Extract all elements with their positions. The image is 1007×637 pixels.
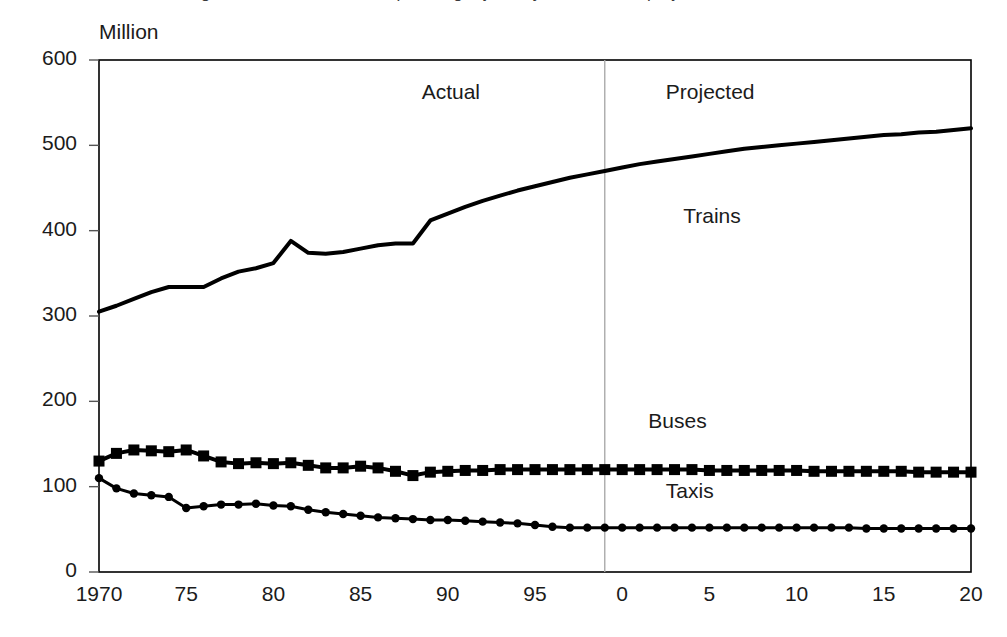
x-tick-label: 90	[403, 582, 493, 606]
annotation-actual: Actual	[422, 80, 480, 104]
y-tick-label: 500	[15, 131, 77, 155]
x-tick-label: 0	[577, 582, 667, 606]
x-tick-label: 95	[490, 582, 580, 606]
y-tick-label: 200	[15, 387, 77, 411]
x-tick-label: 5	[664, 582, 754, 606]
annotation-projected: Projected	[666, 80, 755, 104]
y-tick-label: 0	[15, 558, 77, 582]
series-buses	[94, 444, 977, 481]
series-taxis	[95, 474, 975, 533]
series-trains	[99, 128, 971, 311]
y-tick-label: 300	[15, 302, 77, 326]
y-tick-label: 400	[15, 217, 77, 241]
annotation-taxis: Taxis	[666, 479, 714, 503]
x-tick-label: 20	[926, 582, 1007, 606]
x-tick-label: 85	[316, 582, 406, 606]
x-tick-label: 15	[839, 582, 929, 606]
series-layer	[94, 128, 977, 532]
x-tick-label: 1970	[54, 582, 144, 606]
x-tick-label: 80	[228, 582, 318, 606]
y-tick-label: 100	[15, 473, 77, 497]
annotation-trains: Trains	[683, 204, 741, 228]
axis-layer	[89, 60, 971, 572]
chart-figure: Figure 1 Rail, bus and taxi passenger jo…	[0, 0, 1007, 637]
plot-canvas	[0, 0, 1007, 637]
x-tick-label: 10	[752, 582, 842, 606]
annotation-buses: Buses	[648, 409, 706, 433]
y-tick-label: 600	[15, 46, 77, 70]
x-tick-label: 75	[141, 582, 231, 606]
